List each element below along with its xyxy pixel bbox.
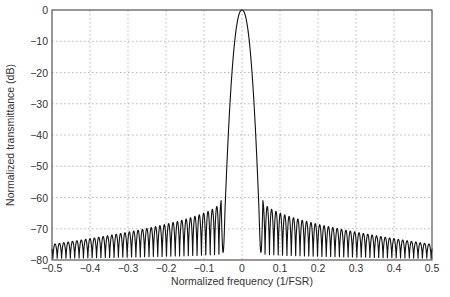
y-tick-label: −30 <box>30 98 48 110</box>
y-axis-ticks: 0−10−20−30−40−50−60−70−80 <box>30 4 48 266</box>
x-tick-label: −0.3 <box>118 262 139 274</box>
transmittance-chart: −0.5−0.4−0.3−0.2−0.100.10.20.30.40.5 0−1… <box>0 0 450 297</box>
x-tick-label: 0.1 <box>273 262 288 274</box>
x-tick-label: 0 <box>239 262 245 274</box>
y-tick-label: −40 <box>30 129 48 141</box>
x-tick-label: 0.4 <box>387 262 402 274</box>
x-axis-ticks: −0.5−0.4−0.3−0.2−0.100.10.20.30.40.5 <box>42 262 440 274</box>
x-tick-label: −0.4 <box>80 262 101 274</box>
y-tick-label: −70 <box>30 223 48 235</box>
y-axis-label: Normalized transmittance (dB) <box>4 64 16 206</box>
y-tick-label: −50 <box>30 160 48 172</box>
y-tick-label: −60 <box>30 192 48 204</box>
grid-lines <box>52 10 432 260</box>
y-tick-label: −10 <box>30 35 48 47</box>
x-axis-label: Normalized frequency (1/FSR) <box>171 275 313 287</box>
y-tick-label: −20 <box>30 67 48 79</box>
x-tick-label: 0.5 <box>425 262 440 274</box>
x-tick-label: −0.1 <box>194 262 215 274</box>
x-tick-label: 0.3 <box>349 262 364 274</box>
y-tick-label: 0 <box>42 4 48 16</box>
y-tick-label: −80 <box>30 254 48 266</box>
x-tick-label: −0.2 <box>156 262 177 274</box>
x-tick-label: 0.2 <box>311 262 326 274</box>
